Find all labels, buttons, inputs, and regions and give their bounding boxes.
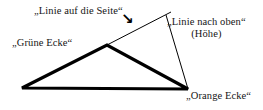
label-up-line-sub: (Höhe) [167, 28, 246, 40]
label-orange-corner: „Orange Ecke“ [186, 90, 251, 102]
label-up-line: „Linie nach oben“ [167, 16, 246, 27]
triangle-outline [22, 45, 188, 89]
label-green-corner: „Grüne Ecke“ [12, 37, 72, 49]
label-side-line: „Linie auf die Seite“ [34, 5, 123, 17]
label-up-line-group: „Linie nach oben“ (Höhe) [167, 16, 246, 40]
geometry-diagram: ↘ „Linie auf die Seite“ „Grüne Ecke“ „Li… [0, 0, 263, 110]
